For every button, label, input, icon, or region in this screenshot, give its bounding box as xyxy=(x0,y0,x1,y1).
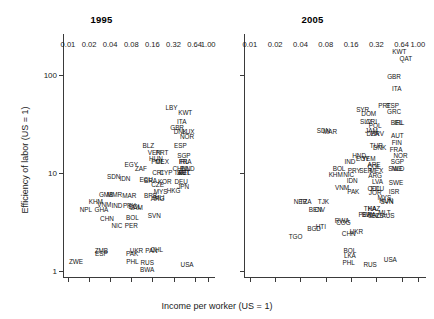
data-point-label: CYP xyxy=(159,170,172,176)
x-tick-label: 0.32 xyxy=(369,40,384,49)
data-point-label: PHL xyxy=(126,258,138,264)
x-tick-mark xyxy=(275,278,276,282)
data-point-label: POL xyxy=(151,159,164,165)
x-tick-label: 0.01 xyxy=(243,40,258,49)
y-tick-mark xyxy=(59,173,63,174)
data-point-label: NIC xyxy=(112,222,123,228)
y-tick-mark xyxy=(59,75,63,76)
data-point-label: HKG xyxy=(167,187,181,193)
y-tick-mark xyxy=(59,271,63,272)
data-point-label: KHM xyxy=(329,172,343,178)
data-point-label: PAK xyxy=(347,189,359,195)
x-tick-label: 0.16 xyxy=(344,40,359,49)
panel-1995: 1995 1101000.010.020.040.080.160.320.641… xyxy=(0,0,219,319)
data-point-label: ISR xyxy=(389,189,400,195)
data-point-label: MMR xyxy=(107,191,122,197)
x-tick-mark xyxy=(326,278,327,282)
x-axis-line-1995 xyxy=(63,277,215,278)
data-point-label: IRL xyxy=(394,120,404,126)
plot-area-1995: 1101000.010.020.040.080.160.320.641.00LB… xyxy=(63,34,215,278)
data-point-label: NPL xyxy=(80,207,92,213)
y-tick-mark xyxy=(240,173,244,174)
y-tick-label: 100 xyxy=(44,70,57,79)
data-point-label: HRV xyxy=(371,131,384,137)
x-tick-label: 0.01 xyxy=(61,40,76,49)
data-point-label: MAR xyxy=(122,193,136,199)
data-point-label: HUN xyxy=(379,198,393,204)
data-point-label: SDN xyxy=(107,174,120,180)
figure-root: Efficiency of labor (US = 1) 1995 110100… xyxy=(0,0,434,319)
data-point-label: PHL xyxy=(343,259,355,265)
y-axis-line-2005 xyxy=(244,34,245,278)
data-point-label: COG xyxy=(336,220,350,226)
data-point-label: ZWE xyxy=(69,258,83,264)
data-point-label: BEL xyxy=(179,170,191,176)
data-point-label: BOL xyxy=(126,214,139,220)
data-point-label: IND xyxy=(112,203,123,209)
x-tick-label: 1.00 xyxy=(410,40,425,49)
data-point-label: ARG xyxy=(151,196,165,202)
data-point-label: GBR xyxy=(387,74,401,80)
data-point-label: HTI xyxy=(316,224,326,230)
y-tick-label: 10 xyxy=(48,168,57,177)
x-tick-mark xyxy=(418,278,419,282)
data-point-label: IND xyxy=(344,159,355,165)
data-point-label: PER xyxy=(125,222,138,228)
data-point-label: ITA xyxy=(392,86,401,92)
data-point-label: MAR xyxy=(323,129,337,135)
x-tick-label: 0.16 xyxy=(145,40,160,49)
x-tick-mark xyxy=(110,278,111,282)
data-point-label: NOR xyxy=(180,134,194,140)
x-tick-mark xyxy=(68,278,69,282)
data-point-label: CIV xyxy=(315,207,326,213)
x-tick-label: 0.02 xyxy=(268,40,283,49)
x-tick-mark xyxy=(174,278,175,282)
x-tick-mark xyxy=(351,278,352,282)
y-tick-mark xyxy=(240,75,244,76)
data-point-label: USA xyxy=(384,257,397,263)
data-point-label: ESP xyxy=(174,142,187,148)
data-point-label: IDN xyxy=(120,176,131,182)
x-tick-label: 0.04 xyxy=(103,40,118,49)
data-point-label: ESP xyxy=(95,251,108,257)
panel-title-1995: 1995 xyxy=(0,14,211,25)
data-point-label: SVN xyxy=(148,213,161,219)
data-point-label: QAT xyxy=(400,56,413,62)
x-axis-title: Income per worker (US = 1) xyxy=(0,301,434,311)
x-tick-label: 0.04 xyxy=(293,40,308,49)
x-tick-label: 1.00 xyxy=(201,40,216,49)
data-point-label: AUS xyxy=(381,213,394,219)
data-point-label: ZAF xyxy=(135,166,147,172)
y-axis-line-1995 xyxy=(63,34,64,278)
x-tick-label: 0.08 xyxy=(318,40,333,49)
x-tick-label: 0.32 xyxy=(166,40,181,49)
x-tick-mark xyxy=(250,278,251,282)
x-tick-mark xyxy=(208,278,209,282)
data-point-label: USA xyxy=(181,262,194,268)
data-point-label: GHA xyxy=(95,207,109,213)
data-point-label: TGO xyxy=(289,234,303,240)
x-tick-label: 0.64 xyxy=(187,40,202,49)
y-tick-label: 1 xyxy=(53,267,57,276)
data-point-label: SWE xyxy=(389,180,403,186)
data-point-label: CHL xyxy=(150,247,163,253)
plot-area-2005: 0.010.020.040.080.160.320.641.00KWTQATGB… xyxy=(244,34,426,278)
data-point-label: UKR xyxy=(350,229,363,235)
data-point-label: LBY xyxy=(166,105,178,111)
data-point-label: BWA xyxy=(140,267,154,273)
x-tick-mark xyxy=(152,278,153,282)
x-tick-label: 0.02 xyxy=(82,40,97,49)
data-point-label: GRC xyxy=(387,109,401,115)
x-tick-mark xyxy=(195,278,196,282)
data-point-label: AUT xyxy=(391,132,404,138)
data-point-label: RUS xyxy=(363,262,376,268)
data-point-label: DNK xyxy=(373,145,386,151)
data-point-label: KWT xyxy=(178,110,192,116)
x-tick-mark xyxy=(300,278,301,282)
x-tick-mark xyxy=(89,278,90,282)
data-point-label: JAM xyxy=(130,205,143,211)
x-tick-mark xyxy=(131,278,132,282)
x-tick-mark xyxy=(376,278,377,282)
data-point-label: NLD xyxy=(392,166,405,172)
y-tick-mark xyxy=(240,271,244,272)
